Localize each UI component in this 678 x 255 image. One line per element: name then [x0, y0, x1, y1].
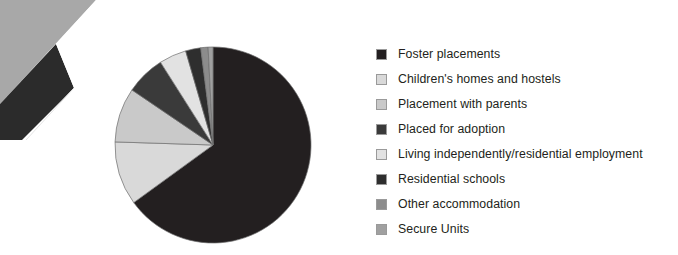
legend-swatch-icon [376, 174, 387, 185]
legend-item-childrens-homes-and-hostels[interactable]: Children's homes and hostels [376, 67, 672, 92]
legend-item-placed-for-adoption[interactable]: Placed for adoption [376, 117, 672, 142]
pie-slices [115, 47, 311, 243]
scanner-background-shape [0, 0, 96, 104]
legend-item-foster-placements[interactable]: Foster placements [376, 42, 672, 67]
page-shadow-wedge [0, 44, 74, 140]
legend-item-other-accommodation[interactable]: Other accommodation [376, 192, 672, 217]
legend-item-label: Other accommodation [398, 198, 520, 210]
legend-swatch-icon [376, 199, 387, 210]
legend-item-residential-schools[interactable]: Residential schools [376, 167, 672, 192]
pie-chart [95, 35, 335, 255]
legend-item-label: Secure Units [398, 223, 469, 235]
legend-item-label: Placed for adoption [398, 123, 505, 135]
legend-swatch-icon [376, 99, 387, 110]
page-fold-line [26, 88, 74, 140]
legend-swatch-icon [376, 149, 387, 160]
legend-swatch-icon [376, 49, 387, 60]
scanner-background-shape-lower [0, 104, 22, 140]
legend-swatch-icon [376, 74, 387, 85]
legend-item-label: Residential schools [398, 173, 505, 185]
legend-item-label: Placement with parents [398, 98, 527, 110]
legend-item-secure-units[interactable]: Secure Units [376, 217, 672, 242]
page-canvas: Foster placements Children's homes and h… [0, 0, 678, 255]
legend-item-living-independently-residential-employment[interactable]: Living independently/residential employm… [376, 142, 672, 167]
legend-swatch-icon [376, 224, 387, 235]
legend-item-label: Children's homes and hostels [398, 73, 561, 85]
legend-swatch-icon [376, 124, 387, 135]
legend-item-label: Foster placements [398, 48, 500, 60]
legend-item-placement-with-parents[interactable]: Placement with parents [376, 92, 672, 117]
chart-legend: Foster placements Children's homes and h… [376, 42, 672, 242]
legend-item-label: Living independently/residential employm… [398, 148, 643, 160]
